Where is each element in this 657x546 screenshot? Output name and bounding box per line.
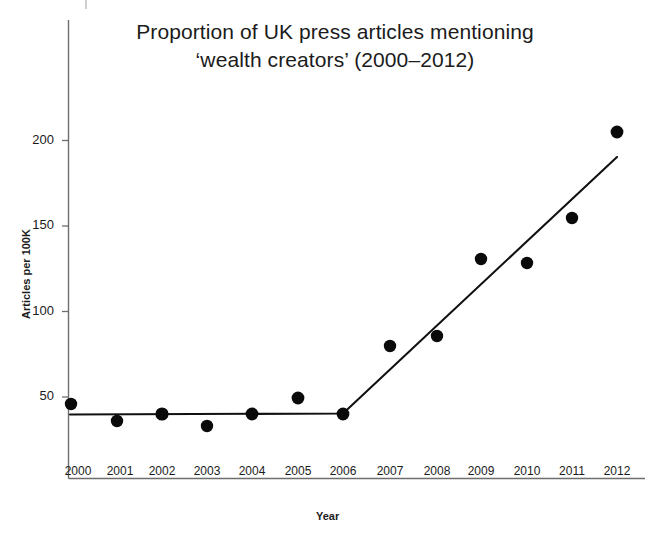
x-tick-label-2012: 2012 <box>594 464 640 478</box>
data-point-2007[interactable] <box>384 340 396 352</box>
x-axis-title: Year <box>316 510 339 522</box>
x-tick-label-2003: 2003 <box>184 464 230 478</box>
data-point-2005[interactable] <box>292 392 305 405</box>
data-point-2010[interactable] <box>521 257 533 269</box>
x-tick-label-2001: 2001 <box>97 464 143 478</box>
chart-figure: Proportion of UK press articles mentioni… <box>0 0 657 546</box>
x-tick-label-2011: 2011 <box>549 464 595 478</box>
data-point-2011[interactable] <box>566 212 578 224</box>
x-tick-label-2004: 2004 <box>229 464 275 478</box>
data-point-2001[interactable] <box>111 415 123 427</box>
data-point-2000[interactable] <box>65 398 77 410</box>
x-tick-label-2009: 2009 <box>458 464 504 478</box>
y-tick-label-50: 50 <box>8 388 54 403</box>
data-point-2008[interactable] <box>431 330 443 342</box>
trend-line <box>70 157 617 415</box>
x-tick-label-2008: 2008 <box>414 464 460 478</box>
x-tick-label-2000: 2000 <box>55 464 101 478</box>
x-tick-label-2006: 2006 <box>320 464 366 478</box>
data-point-2006[interactable] <box>337 408 350 421</box>
data-point-2012[interactable] <box>611 126 624 139</box>
y-axis-title: Articles per 100K <box>20 214 32 334</box>
x-tick-label-2002: 2002 <box>139 464 185 478</box>
y-tick-label-200: 200 <box>8 132 54 147</box>
data-point-2004[interactable] <box>246 408 259 421</box>
data-point-group <box>65 126 624 433</box>
data-point-2009[interactable] <box>475 253 487 265</box>
y-tick-marks <box>62 141 69 398</box>
x-tick-label-2005: 2005 <box>275 464 321 478</box>
data-point-2003[interactable] <box>201 420 213 432</box>
x-tick-label-2007: 2007 <box>367 464 413 478</box>
data-point-2002[interactable] <box>155 407 168 420</box>
x-tick-label-2010: 2010 <box>504 464 550 478</box>
